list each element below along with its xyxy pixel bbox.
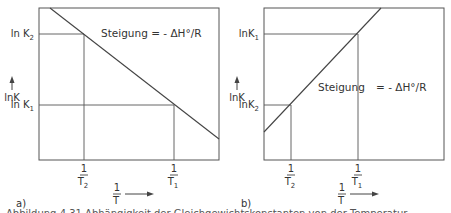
fraction-denominator: T2 — [77, 176, 89, 190]
fraction-denominator: T — [337, 195, 345, 206]
fraction-denominator: T1 — [167, 176, 179, 190]
fraction-numerator: 1 — [81, 163, 87, 174]
fraction-numerator: 1 — [114, 182, 120, 193]
x-axis-label: 1T — [337, 182, 346, 206]
x-tick-label: 1T1 — [167, 163, 179, 190]
fraction-numerator: 1 — [355, 163, 361, 174]
y-tick-label: ln K2 — [11, 28, 34, 42]
y-axis-arrow-head — [235, 76, 240, 83]
x-tick-label: 1T1 — [351, 163, 363, 190]
fraction-denominator: T1 — [351, 176, 363, 190]
fraction-numerator: 1 — [171, 163, 177, 174]
slope-annotation-value: = - ΔH°/R — [376, 81, 426, 93]
y-axis-label: lnK — [229, 92, 245, 103]
figure-canvas: ln K2ln K1lnK1T21T11Ta)Steigung = - ΔH°/… — [0, 0, 451, 213]
x-axis-arrow-head — [147, 192, 154, 197]
fraction-denominator: T — [112, 195, 120, 206]
y-tick-label: lnK1 — [239, 28, 259, 42]
slope-annotation-label: Steigung — [318, 81, 365, 93]
panel-b-endothermic: lnK1lnK2lnK1T21T11Tb)Steigung= - ΔH°/R — [229, 8, 444, 209]
fraction-numerator: 1 — [288, 163, 294, 174]
y-axis-label: lnK — [4, 92, 20, 103]
figure-caption-cropped: Abbildung 4.31 Abhängigkeit der Gleichge… — [6, 208, 408, 213]
panel-a-exothermic: ln K2ln K1lnK1T21T11Ta)Steigung = - ΔH°/… — [4, 8, 219, 209]
x-axis-arrow-head — [372, 192, 379, 197]
y-axis-arrow-head — [10, 76, 15, 83]
x-tick-label: 1T2 — [284, 163, 296, 190]
van-t-hoff-line — [264, 8, 381, 132]
slope-annotation: Steigung = - ΔH°/R — [101, 27, 202, 39]
x-tick-label: 1T2 — [77, 163, 89, 190]
fraction-numerator: 1 — [339, 182, 345, 193]
fraction-denominator: T2 — [284, 176, 296, 190]
x-axis-label: 1T — [112, 182, 121, 206]
